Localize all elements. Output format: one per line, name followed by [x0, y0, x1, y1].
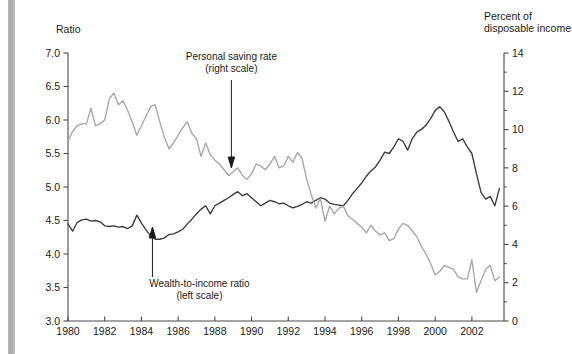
annotation-saving-rate-line2: (right scale): [205, 63, 257, 74]
annotation-wealth-ratio-line1: Wealth-to-income ratio: [149, 278, 250, 289]
series-line-personal-saving-rate: [68, 93, 499, 292]
y-tick-label-right: 12: [512, 85, 524, 97]
series-line-wealth-to-income-ratio: [68, 107, 499, 240]
y-tick-label-right: 14: [512, 47, 524, 59]
x-tick-label: 2002: [460, 325, 484, 337]
y-tick-label-left: 3.5: [45, 281, 60, 293]
chart-figure: 3.03.54.04.55.05.56.06.57.00246810121419…: [0, 0, 572, 354]
right-axis-title-line1: Percent of: [484, 10, 532, 22]
x-tick-label: 1994: [313, 325, 337, 337]
left-axis-title: Ratio: [56, 23, 81, 35]
x-tick-label: 1986: [166, 325, 190, 337]
y-tick-label-left: 6.0: [45, 114, 60, 126]
right-axis-title-line2: disposable income: [484, 22, 571, 34]
annotation-wealth-ratio-line2: (left scale): [176, 290, 222, 301]
x-tick-label: 2000: [423, 325, 447, 337]
y-tick-label-right: 2: [512, 276, 518, 288]
y-tick-label-left: 5.0: [45, 181, 60, 193]
y-tick-label-left: 7.0: [45, 47, 60, 59]
left-bottom-axis: [68, 53, 504, 321]
x-tick-label: 1982: [93, 325, 117, 337]
y-tick-label-left: 4.0: [45, 248, 60, 260]
y-tick-label-right: 4: [512, 238, 518, 250]
annotation-wealth-ratio-arrow-head: [149, 227, 155, 238]
x-tick-label: 1988: [203, 325, 227, 337]
x-tick-label: 1998: [387, 325, 411, 337]
y-tick-label-right: 8: [512, 162, 518, 174]
x-tick-label: 1980: [56, 325, 80, 337]
x-tick-label: 1996: [350, 325, 374, 337]
x-tick-label: 1992: [277, 325, 301, 337]
y-tick-label-left: 4.5: [45, 214, 60, 226]
y-tick-label-right: 0: [512, 315, 518, 327]
annotation-saving-rate-arrow-head: [228, 157, 234, 168]
annotation-saving-rate-line1: Personal saving rate: [186, 51, 278, 62]
x-tick-label: 1990: [240, 325, 264, 337]
chart-canvas: 3.03.54.04.55.05.56.06.57.00246810121419…: [0, 0, 572, 354]
y-tick-label-right: 10: [512, 123, 524, 135]
x-tick-label: 1984: [130, 325, 154, 337]
y-tick-label-right: 6: [512, 200, 518, 212]
y-tick-label-left: 5.5: [45, 147, 60, 159]
y-tick-label-left: 6.5: [45, 80, 60, 92]
